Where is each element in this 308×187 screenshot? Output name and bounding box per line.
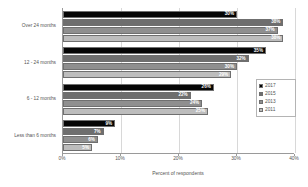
category-label: Less than 6 months xyxy=(14,133,56,138)
bar-row: 9% xyxy=(63,120,294,127)
bar[interactable]: 38% xyxy=(63,35,283,42)
bar[interactable]: 25% xyxy=(63,108,208,115)
bar-value-label: 9% xyxy=(106,121,113,126)
x-tick-label: 10% xyxy=(115,157,125,162)
bar[interactable]: 5% xyxy=(63,144,92,151)
x-tick-label: 40% xyxy=(289,157,299,162)
bar-row: 6% xyxy=(63,136,294,143)
legend-item[interactable]: 2015 xyxy=(259,90,293,98)
bar[interactable]: 37% xyxy=(63,27,278,34)
legend-label: 2015 xyxy=(265,92,276,97)
legend-label: 2011 xyxy=(265,108,275,113)
bar-row: 30% xyxy=(63,63,294,70)
legend-swatch-icon xyxy=(259,108,263,112)
legend-label: 2013 xyxy=(265,100,276,105)
bar-value-label: 38% xyxy=(271,20,280,25)
bar-row: 7% xyxy=(63,128,294,135)
bar[interactable]: 9% xyxy=(63,120,115,127)
bar-value-label: 38% xyxy=(271,36,280,41)
x-tick-label: 0% xyxy=(59,157,66,162)
bar[interactable]: 7% xyxy=(63,128,104,135)
bar[interactable]: 22% xyxy=(63,92,191,99)
x-tick-label: 30% xyxy=(231,157,241,162)
legend-item[interactable]: 2017 xyxy=(259,82,293,90)
bar-row: 29% xyxy=(63,71,294,78)
bar[interactable]: 38% xyxy=(63,19,283,26)
legend-label: 2017 xyxy=(265,84,276,89)
bar-chart: Over 24 months12 - 24 months6 - 12 month… xyxy=(0,0,308,187)
bar-group: 35%32%30%29% xyxy=(63,45,294,82)
x-axis-title: Percent of respondents xyxy=(62,170,294,176)
bar-value-label: 25% xyxy=(196,109,205,114)
bar-value-label: 7% xyxy=(94,129,101,134)
legend-swatch-icon xyxy=(259,100,263,104)
bar-value-label: 29% xyxy=(219,72,228,77)
bar[interactable]: 6% xyxy=(63,136,98,143)
bar-value-label: 32% xyxy=(236,56,245,61)
bar-row: 35% xyxy=(63,47,294,54)
bar-value-label: 35% xyxy=(254,48,263,53)
bar-row: 38% xyxy=(63,35,294,42)
bar-group: 30%38%37%38% xyxy=(63,8,294,45)
bar[interactable]: 30% xyxy=(63,63,237,70)
legend-swatch-icon xyxy=(259,84,263,88)
bar-value-label: 30% xyxy=(225,64,234,69)
legend: 2017201520132011 xyxy=(256,79,296,117)
bar-row: 37% xyxy=(63,27,294,34)
bar-value-label: 26% xyxy=(202,85,211,90)
category-axis: Over 24 months12 - 24 months6 - 12 month… xyxy=(0,8,60,154)
bar[interactable]: 32% xyxy=(63,55,249,62)
bar[interactable]: 30% xyxy=(63,11,237,18)
bar-value-label: 6% xyxy=(88,137,95,142)
bar-group: 9%7%6%5% xyxy=(63,118,294,155)
bar[interactable]: 29% xyxy=(63,71,231,78)
bar-row: 38% xyxy=(63,19,294,26)
legend-item[interactable]: 2011 xyxy=(259,106,293,114)
category-label: 6 - 12 months xyxy=(27,97,56,102)
bar-value-label: 37% xyxy=(265,28,274,33)
bar-value-label: 24% xyxy=(190,101,199,106)
bar[interactable]: 26% xyxy=(63,84,214,91)
bar-value-label: 30% xyxy=(225,12,234,17)
category-label: 12 - 24 months xyxy=(24,60,56,65)
bar-value-label: 5% xyxy=(82,145,89,150)
bar[interactable]: 35% xyxy=(63,47,266,54)
x-axis: 0%10%20%30%40% xyxy=(62,154,294,166)
legend-swatch-icon xyxy=(259,92,263,96)
bar-row: 32% xyxy=(63,55,294,62)
x-tick-label: 20% xyxy=(173,157,183,162)
bar[interactable]: 24% xyxy=(63,100,202,107)
bar-row: 30% xyxy=(63,11,294,18)
legend-item[interactable]: 2013 xyxy=(259,98,293,106)
bar-row: 5% xyxy=(63,144,294,151)
category-label: Over 24 months xyxy=(22,24,56,29)
bar-value-label: 22% xyxy=(178,93,187,98)
